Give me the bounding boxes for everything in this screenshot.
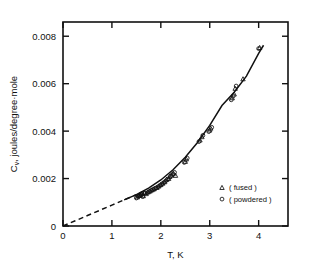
x-axis-label: T, K [167, 249, 184, 260]
legend-label-0: ( fused ) [229, 183, 257, 192]
x-tick-label: 1 [109, 230, 114, 241]
x-tick-label: 2 [158, 230, 163, 241]
cv-vs-temperature-chart: 0123400.0020.0040.0060.008T, KCv, joules… [0, 0, 311, 264]
figure-container: 0123400.0020.0040.0060.008T, KCv, joules… [0, 0, 311, 264]
y-axis-label-units: , joules/degree·mole [8, 76, 19, 162]
y-tick-label: 0.006 [32, 78, 56, 89]
fit-curve-solid [124, 45, 263, 200]
y-tick-label: 0.004 [32, 126, 56, 137]
legend-marker-0 [220, 185, 224, 189]
y-axis-label-text: Cv, joules/degree·mole [8, 76, 20, 172]
legend-label-1: ( powdered ) [229, 195, 272, 204]
series-fused [135, 45, 262, 199]
y-tick-label: 0 [51, 221, 56, 232]
y-axis-label: Cv, joules/degree·mole [8, 76, 20, 172]
legend-marker-1 [220, 197, 224, 201]
legend: ( fused )( powdered ) [220, 183, 272, 204]
y-tick-label: 0.002 [32, 173, 56, 184]
series-powdered [134, 47, 260, 200]
x-tick-label: 3 [207, 230, 212, 241]
y-tick-label: 0.008 [32, 31, 56, 42]
x-tick-label: 4 [256, 230, 261, 241]
x-tick-label: 0 [60, 230, 65, 241]
